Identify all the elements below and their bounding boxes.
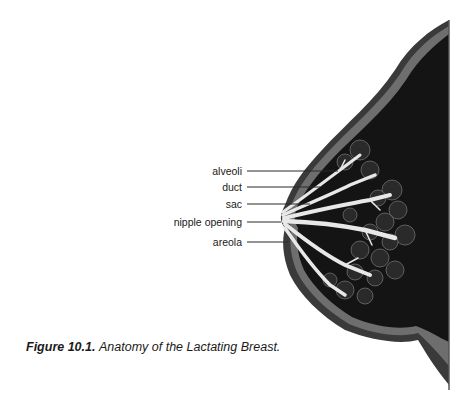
figure-caption: Figure 10.1. Anatomy of the Lactating Br…: [26, 340, 280, 354]
figure-number: Figure 10.1.: [26, 340, 95, 354]
label-areola: areola: [122, 236, 242, 248]
label-sac: sac: [122, 198, 242, 210]
label-nipple-opening: nipple opening: [122, 216, 242, 228]
label-duct: duct: [122, 181, 242, 193]
breast-anatomy-diagram: [0, 0, 472, 394]
figure-title: Anatomy of the Lactating Breast.: [99, 340, 280, 354]
label-alveoli: alveoli: [122, 165, 242, 177]
